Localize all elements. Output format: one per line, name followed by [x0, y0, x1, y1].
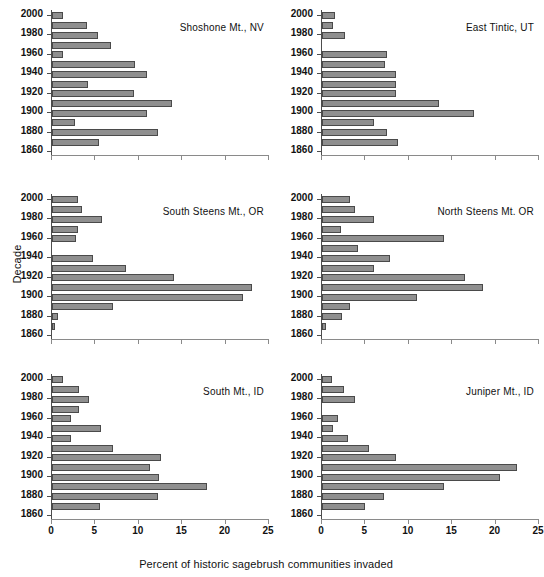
y-tick-label: 2000: [21, 372, 43, 383]
y-tick: 1900: [317, 112, 321, 113]
y-tick-label: 1880: [21, 309, 43, 320]
y-tick: 1960: [317, 238, 321, 239]
y-tick-label: 1920: [21, 450, 43, 461]
bar: [322, 435, 348, 442]
y-tick-label: 1940: [21, 66, 43, 77]
y-tick: 2000: [47, 15, 51, 16]
bar: [322, 313, 342, 320]
x-tick: [408, 156, 409, 160]
x-tick: [94, 340, 95, 344]
y-tick-label: 1920: [291, 86, 313, 97]
bar: [52, 129, 158, 136]
bar: [52, 313, 58, 320]
bar: [322, 255, 390, 262]
chart-panel-bottom-right: 2000198019601940192019001880186005101520…: [288, 368, 538, 536]
y-tick-label: 2000: [291, 372, 313, 383]
y-tick: 1960: [47, 54, 51, 55]
x-tick: [94, 156, 95, 160]
bar: [52, 396, 89, 403]
x-tick: [181, 340, 182, 344]
y-tick-label: 1960: [291, 231, 313, 242]
x-tick-label: 10: [402, 525, 413, 536]
x-tick: [138, 156, 139, 160]
y-tick: 1900: [317, 476, 321, 477]
x-tick: [538, 156, 539, 160]
bar: [322, 274, 465, 281]
x-tick: 10: [408, 520, 409, 524]
bar: [52, 12, 63, 19]
y-tick-label: 1980: [21, 27, 43, 38]
x-tick: 0: [321, 520, 322, 524]
bar: [52, 42, 111, 49]
x-tick: [268, 156, 269, 160]
bar: [322, 265, 374, 272]
bar: [52, 206, 82, 213]
y-tick: 1880: [317, 316, 321, 317]
x-tick: [321, 156, 322, 160]
bar: [52, 51, 63, 58]
bar: [322, 245, 358, 252]
x-tick: [51, 340, 52, 344]
y-tick: 1860: [47, 151, 51, 152]
bar: [52, 119, 75, 126]
y-tick: 1960: [317, 418, 321, 419]
bar: [322, 12, 335, 19]
y-tick: 1900: [47, 112, 51, 113]
bar: [52, 415, 71, 422]
bar: [322, 100, 439, 107]
bar: [52, 284, 252, 291]
panel-title: North Steens Mt. OR: [437, 206, 534, 217]
x-tick: [451, 156, 452, 160]
bar: [322, 71, 396, 78]
bar: [52, 406, 79, 413]
bar: [52, 294, 243, 301]
x-tick: 15: [451, 520, 452, 524]
x-axis-line: [321, 519, 539, 520]
y-tick-label: 1880: [291, 125, 313, 136]
y-tick: 1940: [317, 257, 321, 258]
bar: [52, 386, 79, 393]
y-tick-label: 1980: [21, 391, 43, 402]
x-tick-label: 0: [318, 525, 324, 536]
y-tick: 1980: [47, 218, 51, 219]
x-tick-label: 15: [176, 525, 187, 536]
bar: [52, 454, 161, 461]
x-tick: [268, 340, 269, 344]
y-tick-label: 1940: [21, 250, 43, 261]
panel-title: Juniper Mt., ID: [466, 386, 534, 397]
y-tick: 2000: [317, 199, 321, 200]
y-tick: 1920: [317, 277, 321, 278]
bar: [52, 216, 102, 223]
y-tick-label: 1860: [21, 328, 43, 339]
y-tick: 1940: [47, 437, 51, 438]
y-tick-label: 1920: [291, 450, 313, 461]
bar: [322, 90, 396, 97]
x-axis-line: [321, 339, 539, 340]
bar: [322, 303, 350, 310]
x-tick: [138, 340, 139, 344]
y-tick-label: 1940: [291, 430, 313, 441]
y-tick-label: 1960: [291, 47, 313, 58]
y-tick: 1980: [317, 34, 321, 35]
y-tick-label: 1960: [21, 411, 43, 422]
y-tick: 2000: [317, 379, 321, 380]
y-tick: 1920: [47, 277, 51, 278]
bar: [322, 22, 333, 29]
y-tick-label: 1900: [291, 105, 313, 116]
bar: [322, 464, 517, 471]
y-tick: 2000: [47, 199, 51, 200]
y-tick-label: 1980: [291, 391, 313, 402]
y-tick: 2000: [317, 15, 321, 16]
bar: [52, 464, 150, 471]
x-tick: 5: [364, 520, 365, 524]
bar: [52, 81, 88, 88]
y-tick: 1880: [47, 132, 51, 133]
bar: [52, 274, 174, 281]
y-tick-label: 2000: [291, 192, 313, 203]
y-tick: 1860: [317, 151, 321, 152]
y-tick-label: 1900: [291, 469, 313, 480]
x-tick: 20: [225, 520, 226, 524]
bar: [52, 226, 78, 233]
y-tick-label: 1880: [291, 309, 313, 320]
y-tick: 1920: [317, 93, 321, 94]
